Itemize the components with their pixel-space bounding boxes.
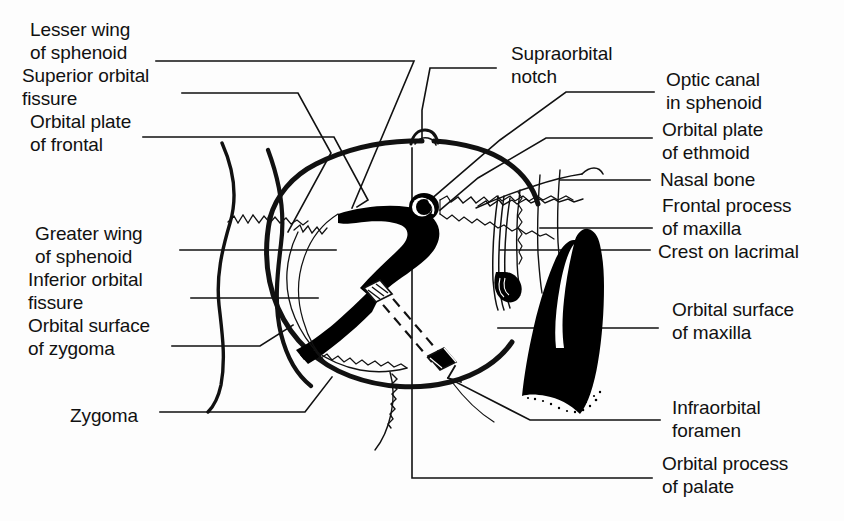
lateral-skull-contour	[208, 143, 234, 412]
probe-lower-end	[428, 348, 456, 370]
leader-orbital-plate-of-frontal	[143, 137, 368, 207]
label-orbital-surface-of-zygoma: Orbital surface of zygoma	[28, 314, 150, 360]
label-optic-canal-in-sphenoid: Optic canal in sphenoid	[666, 68, 762, 114]
label-orbital-plate-of-frontal: Orbital plate of frontal	[30, 110, 131, 156]
orbit-anatomy-figure: Lesser wing of sphenoid Superior orbital…	[0, 0, 844, 521]
leader-superior-orbital-fissure	[182, 93, 331, 232]
label-frontal-process-of-maxilla: Frontal process of maxilla	[662, 194, 791, 240]
orbital-fissures-fill	[296, 206, 439, 364]
label-orbital-process-of-palate: Orbital process of palate	[662, 452, 788, 498]
label-orbital-plate-of-ethmoid: Orbital plate of ethmoid	[662, 118, 763, 164]
label-orbital-surface-of-maxilla: Orbital surface of maxilla	[672, 298, 794, 344]
leader-supraorbital-notch	[422, 68, 496, 140]
inferior-orbital-fissure-taper	[300, 296, 380, 364]
label-zygoma: Zygoma	[70, 404, 138, 427]
leader-orbital-surface-of-zygoma	[172, 325, 293, 346]
label-nasal-bone: Nasal bone	[660, 168, 755, 191]
label-infraorbital-foramen: Infraorbital foramen	[672, 396, 761, 442]
orbital-surface-of-maxilla-fill	[522, 229, 604, 414]
label-superior-orbital-fissure: Superior orbital fissure	[22, 64, 149, 110]
label-supraorbital-notch: Supraorbital notch	[511, 42, 612, 88]
label-greater-wing-of-sphenoid: Greater wing of sphenoid	[35, 222, 143, 268]
label-inferior-orbital-fissure: Inferior orbital fissure	[28, 268, 143, 314]
label-lesser-wing-of-sphenoid: Lesser wing of sphenoid	[30, 18, 130, 64]
infraorbital-canal-probe	[364, 280, 456, 370]
optic-canal-foramen	[409, 193, 439, 221]
label-crest-on-lacrimal: Crest on lacrimal	[658, 240, 799, 263]
